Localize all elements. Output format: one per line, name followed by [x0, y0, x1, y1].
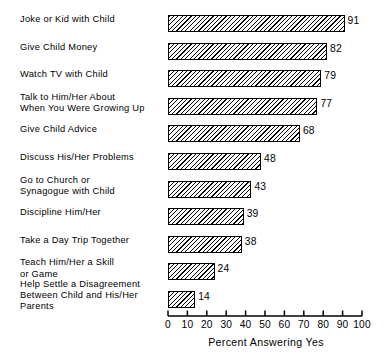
bar-row: Help Settle a Disagreement Between Child… — [0, 288, 390, 316]
bar-row: Talk to Him/Her About When You Were Grow… — [0, 95, 390, 123]
bar-value-label: 24 — [218, 263, 230, 275]
bar[interactable] — [168, 236, 242, 253]
bar-category-label: Watch TV with Child — [20, 69, 166, 80]
bar[interactable] — [168, 208, 244, 225]
bar[interactable] — [168, 291, 195, 308]
bar-category-label: Give Child Advice — [20, 124, 166, 135]
bar-category-label: Go to Church or Synagogue with Child — [20, 175, 166, 197]
bar[interactable] — [168, 263, 215, 280]
x-axis-tick-label: 50 — [259, 319, 271, 330]
x-axis-tick-label: 100 — [353, 319, 370, 330]
bar[interactable] — [168, 98, 317, 115]
bar-row: Give Child Money82 — [0, 40, 390, 68]
bar[interactable] — [168, 125, 300, 142]
bar-row: Discipline Him/Her39 — [0, 205, 390, 233]
bar[interactable] — [168, 43, 327, 60]
bar-category-label: Help Settle a Disagreement Between Child… — [20, 279, 166, 313]
bar-category-label: Give Child Money — [20, 42, 166, 53]
bar-value-label: 68 — [303, 125, 315, 137]
bar-value-label: 48 — [264, 153, 276, 165]
bar-category-label: Discipline Him/Her — [20, 207, 166, 218]
bar-value-label: 82 — [330, 43, 342, 55]
x-axis-tick-label: 90 — [337, 319, 349, 330]
x-axis-tick-label: 20 — [201, 319, 213, 330]
bar[interactable] — [168, 153, 261, 170]
x-axis-title: Percent Answering Yes — [168, 336, 364, 348]
bar-category-label: Take a Day Trip Together — [20, 235, 166, 246]
bar[interactable] — [168, 181, 251, 198]
x-axis-tick-label: 70 — [298, 319, 310, 330]
bar-category-label: Talk to Him/Her About When You Were Grow… — [20, 92, 166, 114]
bar-chart: Joke or Kid with Child91Give Child Money… — [0, 0, 390, 356]
x-axis-tick-label: 60 — [279, 319, 291, 330]
bar-value-label: 14 — [198, 291, 210, 303]
bar-category-label: Discuss His/Her Problems — [20, 152, 166, 163]
bar-value-label: 79 — [324, 70, 336, 82]
bar-category-label: Teach Him/Her a Skill or Game — [20, 257, 166, 279]
bar[interactable] — [168, 70, 321, 87]
bar-category-label: Joke or Kid with Child — [20, 14, 166, 25]
bar-value-label: 43 — [254, 181, 266, 193]
x-axis-tick-label: 40 — [240, 319, 252, 330]
bar[interactable] — [168, 15, 345, 32]
x-axis-tick-label: 10 — [182, 319, 194, 330]
bar-row: Go to Church or Synagogue with Child43 — [0, 178, 390, 206]
bar-value-label: 38 — [245, 236, 257, 248]
bar-value-label: 77 — [320, 98, 332, 110]
bar-row: Give Child Advice68 — [0, 122, 390, 150]
x-axis-tick-label: 80 — [317, 319, 329, 330]
bar-value-label: 39 — [247, 208, 259, 220]
bar-row: Joke or Kid with Child91 — [0, 12, 390, 40]
x-axis-tick-label: 30 — [220, 319, 232, 330]
bar-value-label: 91 — [348, 15, 360, 27]
x-axis-tick-label: 0 — [165, 319, 171, 330]
